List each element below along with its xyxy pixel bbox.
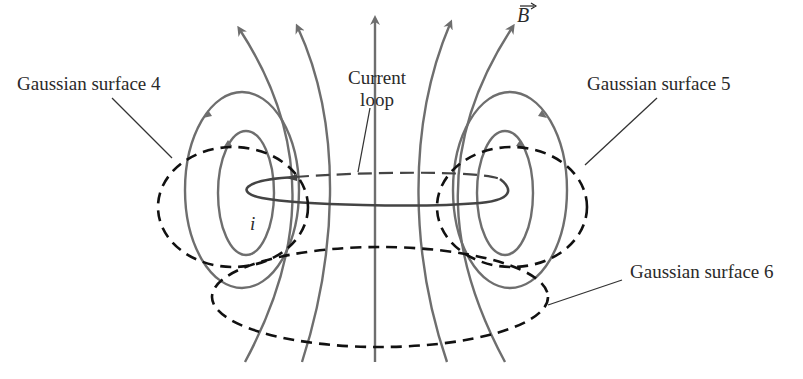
label-current-loop-line1: Current xyxy=(337,68,417,87)
diagram-canvas: Gaussian surface 4 Gaussian surface 5 Ga… xyxy=(0,0,803,379)
right-closed-field-lines xyxy=(453,92,567,288)
gaussian-surfaces xyxy=(158,147,587,347)
label-gaussian-surface-5: Gaussian surface 5 xyxy=(587,74,731,93)
label-gaussian-surface-6: Gaussian surface 6 xyxy=(630,262,774,281)
current-loop xyxy=(247,173,509,206)
label-magnetic-field-B: B xyxy=(517,5,529,25)
field-diagram xyxy=(0,0,803,379)
label-current-loop-line2: loop xyxy=(337,90,417,109)
leader-lines xyxy=(112,98,657,305)
gaussian-surface-6 xyxy=(212,247,548,347)
left-closed-field-lines xyxy=(185,92,299,288)
label-gaussian-surface-4: Gaussian surface 4 xyxy=(17,74,161,93)
label-current-i: i xyxy=(250,214,255,233)
